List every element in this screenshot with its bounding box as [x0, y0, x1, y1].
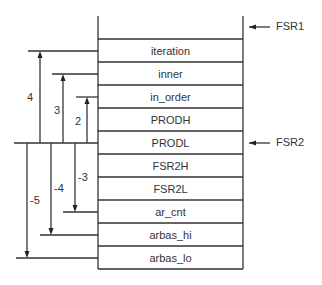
cell-prodh: PRODH: [98, 108, 243, 131]
cell-iteration: iteration: [98, 39, 243, 62]
offset-up-4: 4: [27, 91, 33, 103]
arrow-left-icon: [249, 141, 256, 146]
offset-up-2: 2: [75, 115, 81, 127]
cell-fsr2h: FSR2H: [98, 154, 243, 177]
offset-up-3: 3: [54, 104, 60, 116]
offset-down-5: -5: [30, 194, 40, 206]
arrow-up-icon: [85, 97, 90, 104]
cell-ar-cnt: ar_cnt: [98, 200, 243, 223]
arrow-down-icon: [25, 251, 30, 258]
arrow-left-icon: [249, 25, 256, 30]
cell-arbas-hi: arbas_hi: [98, 223, 243, 246]
pointer-fsr1-label: FSR1: [276, 20, 304, 32]
cell-prodl: PRODL: [98, 131, 243, 154]
cell-inner: inner: [98, 62, 243, 85]
offset-down-4: -4: [54, 182, 64, 194]
pointer-fsr2-label: FSR2: [276, 136, 304, 148]
arrow-down-icon: [73, 205, 78, 212]
cell-fsr2l: FSR2L: [98, 177, 243, 200]
cell-arbas-lo: arbas_lo: [98, 246, 243, 269]
arrow-down-icon: [49, 228, 54, 235]
arrow-up-icon: [38, 51, 43, 58]
offset-down-3: -3: [78, 171, 88, 183]
cell-in-order: in_order: [98, 85, 243, 108]
arrow-up-icon: [61, 74, 66, 81]
